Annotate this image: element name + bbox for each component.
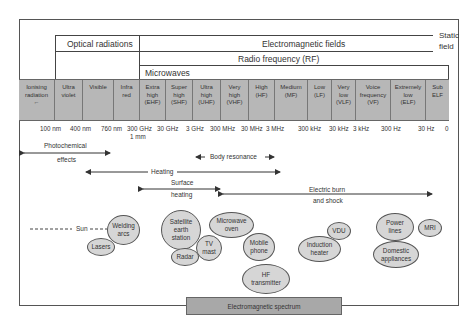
photochemical-label-1: Photochemical [44,142,87,149]
surface-heating-label-2: heating [171,191,192,198]
source-radar: Radar [171,248,199,266]
heating-label: Heating [151,168,173,175]
source-microwave-oven: Microwaveoven [209,212,254,238]
source-mobile-phone: Mobilephone [243,233,275,261]
source-domestic-appliances: Domesticappliances [373,241,419,268]
photochemical-label-2: effects [57,156,76,163]
surface-heating-label-1: Surface [171,179,193,186]
source-tv-mast: TVmast [196,235,222,261]
sun-label: Sun [76,225,88,232]
source-mri: MRI [418,219,442,237]
source-satellite-earth-station: Satelliteearthstation [161,210,201,250]
effect-arrows [0,0,475,332]
electric-burn-label-2: and shock [313,197,343,204]
source-hf-transmitter: HFtransmitter [242,264,290,294]
source-power-lines: Powerlines [376,213,414,241]
body-resonance-label: Body resonance [210,153,257,160]
electromagnetic-spectrum-label: Electromagnetic spectrum [186,297,342,315]
source-induction-heater: Inductionheater [298,236,341,262]
electric-burn-label-1: Electric burn [309,186,345,193]
source-lasers: Lasers [87,238,115,256]
